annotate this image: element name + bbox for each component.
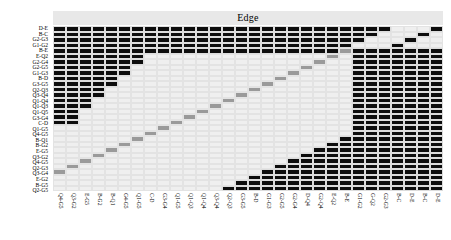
x-axis-tick: G2-G4 (287, 192, 300, 238)
heatmap-cell (339, 186, 352, 192)
x-axis-tick: D-E (404, 192, 417, 238)
x-axis-tick-label: C-D (148, 193, 154, 203)
x-axis-tick-label: B-G2 (96, 193, 102, 205)
x-axis-tick-label: B-D (252, 193, 258, 203)
x-axis-tick: Q4-G5 (53, 192, 66, 238)
x-axis-tick-label: Q2-Q3 (226, 193, 232, 209)
x-axis-tick-label: E-G5 (83, 193, 89, 205)
x-axis-tick: C-D (144, 192, 157, 238)
y-axis-tick-label: Q2-G5 (0, 188, 51, 194)
heatmap-cell (92, 186, 105, 192)
x-axis-tick: G3-G4 (157, 192, 170, 238)
x-axis-labels: Q4-G5Q3-G2E-G5B-G2B-Q1G4-G5Q1-G5C-DG3-G4… (53, 192, 443, 238)
x-axis-tick-label: Q3-Q4 (213, 193, 219, 209)
x-axis-tick: G2-G3 (378, 192, 391, 238)
x-axis-tick: D-Q4 (300, 192, 313, 238)
x-axis-tick-label: Q4-G5 (57, 193, 63, 209)
x-axis-tick: Q3-Q4 (209, 192, 222, 238)
x-axis-tick: G4-G5 (118, 192, 131, 238)
x-axis-tick-label: G4-G5 (122, 193, 128, 209)
x-axis-tick: G-Q2 (365, 192, 378, 238)
heatmap-cell (365, 186, 378, 192)
x-axis-tick-label: G2-G3 (382, 193, 388, 209)
heatmap-cell (222, 186, 235, 192)
heatmap-cell (53, 186, 66, 192)
x-axis-tick: Q1-G5 (131, 192, 144, 238)
x-axis-tick-label: Q3-G2 (70, 193, 76, 209)
heatmap-cell (313, 186, 326, 192)
heatmap-cell (378, 186, 391, 192)
heatmap-cell (183, 186, 196, 192)
heatmap-cell (79, 186, 92, 192)
heatmap-cell (300, 186, 313, 192)
heatmap-cell (326, 186, 339, 192)
heatmap-cell (66, 186, 79, 192)
x-axis-tick-label: B-Q1 (109, 193, 115, 205)
x-axis-tick-label: G2-G4 (291, 193, 297, 209)
x-axis-tick: B-E (339, 192, 352, 238)
heatmap-cell (417, 186, 430, 192)
x-axis-tick-label: G2-G5 (278, 193, 284, 209)
x-axis-tick: B-D (248, 192, 261, 238)
x-axis-tick: D-E (430, 192, 443, 238)
x-axis-tick-label: D-E (408, 193, 414, 202)
x-axis-tick: E-Q2 (326, 192, 339, 238)
x-axis-tick-label: B-C (421, 193, 427, 202)
x-axis-tick: Q3-G2 (66, 192, 79, 238)
x-axis-tick-label: D-Q4 (304, 193, 310, 206)
x-axis-tick: G2-G5 (274, 192, 287, 238)
x-axis-tick-label: Q1-Q4 (200, 193, 206, 209)
heatmap-plot-area (53, 26, 443, 191)
x-axis-tick: E-G5 (79, 192, 92, 238)
heatmap-cell (131, 186, 144, 192)
x-axis-tick-label: Q1-G5 (135, 193, 141, 209)
heatmap-cell (404, 186, 417, 192)
heatmap-cell (391, 186, 404, 192)
x-axis-tick-label: G-Q2 (369, 193, 375, 206)
x-axis-tick-label: Q1-Q3 (187, 193, 193, 209)
x-axis-tick-label: Q1-G5 (174, 193, 180, 209)
x-axis-tick: Q2-Q3 (222, 192, 235, 238)
heatmap-cell (274, 186, 287, 192)
x-axis-tick: G3-G5 (235, 192, 248, 238)
x-axis-tick-label: D-E (434, 193, 440, 202)
heatmap-cell (235, 186, 248, 192)
x-axis-tick: Q1-Q4 (196, 192, 209, 238)
x-axis-tick-label: G3-G4 (161, 193, 167, 209)
heatmap-figure: Edge D-EB-CG2-G3G1-G2B-EE-Q2G2-G4G2-G5G1… (0, 0, 451, 240)
page-title: Edge (237, 13, 258, 23)
x-axis-tick-label: B-E (343, 193, 349, 202)
x-axis-tick: B-Q1 (105, 192, 118, 238)
heatmap-cell (118, 186, 131, 192)
x-axis-tick-label: E-Q2 (330, 193, 336, 205)
x-axis-tick: Q1-G5 (170, 192, 183, 238)
x-axis-tick: G1-G3 (261, 192, 274, 238)
heatmap-cell (352, 186, 365, 192)
x-axis-tick: B-C (391, 192, 404, 238)
heatmap-cell (287, 186, 300, 192)
x-axis-tick: G2-Q4 (313, 192, 326, 238)
heatmap-cell (248, 186, 261, 192)
chart-title-band: Edge (53, 11, 443, 25)
x-axis-tick: B-C (417, 192, 430, 238)
heatmap-cell (261, 186, 274, 192)
heatmap-cell (144, 186, 157, 192)
x-axis-tick: Q1-Q3 (183, 192, 196, 238)
y-axis-labels: D-EB-CG2-G3G1-G2B-EE-Q2G2-G4G2-G5G1-G3B-… (0, 26, 51, 191)
x-axis-tick: G1-G2 (352, 192, 365, 238)
heatmap-cell (170, 186, 183, 192)
heatmap-cell (209, 186, 222, 192)
heatmap-cell (157, 186, 170, 192)
x-axis-tick-label: B-C (395, 193, 401, 202)
x-axis-tick: B-G2 (92, 192, 105, 238)
heatmap-cell (430, 186, 443, 192)
x-axis-tick-label: G3-G5 (239, 193, 245, 209)
x-axis-tick-label: G2-Q4 (317, 193, 323, 209)
heatmap-cell (196, 186, 209, 192)
heatmap-grid (53, 26, 443, 191)
x-axis-tick-label: G1-G2 (356, 193, 362, 209)
heatmap-cell (105, 186, 118, 192)
x-axis-tick-label: G1-G3 (265, 193, 271, 209)
